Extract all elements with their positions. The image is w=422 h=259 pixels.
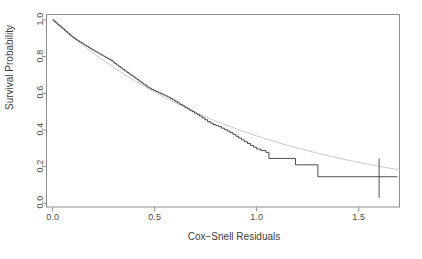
x-axis-title: Cox−Snell Residuals bbox=[0, 231, 422, 242]
y-tick-label-3: 0.6 bbox=[35, 81, 45, 103]
x-tick-label-1: 0.5 bbox=[148, 212, 161, 222]
y-tick-label-0: 0.0 bbox=[35, 191, 45, 213]
x-tick-label-0: 0.0 bbox=[46, 212, 59, 222]
plot-box-frame bbox=[47, 15, 400, 208]
y-axis-title: Survival Probability bbox=[4, 25, 15, 110]
y-tick-label-5: 1.0 bbox=[35, 8, 45, 30]
plot-box-border bbox=[47, 15, 400, 208]
y-tick-label-4: 0.8 bbox=[35, 45, 45, 67]
kaplan-meier-step-curve bbox=[53, 20, 398, 177]
x-tick-label-3: 1.5 bbox=[352, 212, 365, 222]
y-tick-label-1: 0.2 bbox=[35, 155, 45, 177]
reference-exponential-curve bbox=[53, 20, 400, 170]
x-axis-ticks bbox=[53, 207, 359, 212]
x-tick-label-2: 1.0 bbox=[250, 212, 263, 222]
figure-canvas: 0.00.51.01.5 0.00.20.40.60.81.0 Cox−Snel… bbox=[0, 0, 422, 259]
y-tick-label-2: 0.4 bbox=[35, 118, 45, 140]
